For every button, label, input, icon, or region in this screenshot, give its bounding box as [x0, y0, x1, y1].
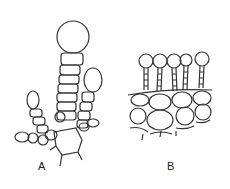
panel-label-b: B: [167, 160, 174, 172]
panel-a-drawing: [15, 21, 102, 166]
panel-b-drawing: [128, 52, 212, 140]
panel-label-a: A: [38, 160, 45, 172]
botanical-illustration: [0, 0, 230, 189]
